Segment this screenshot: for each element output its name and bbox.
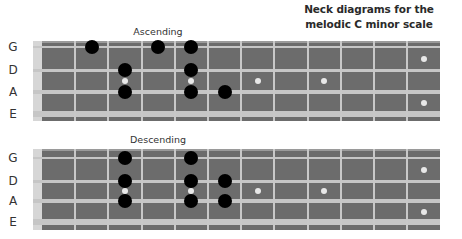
fret-wire [273,41,275,121]
board-edge [33,149,440,151]
fretboard-descending [33,149,440,230]
fret-wire [74,41,76,121]
string-label-e: E [4,216,22,228]
string-label-a: A [4,195,22,207]
note-dot [85,40,99,54]
string-d [33,180,440,183]
inlay-dot [255,188,261,194]
string-e [33,219,440,225]
note-dot [184,63,198,77]
inlay-dot [255,78,261,84]
fret-wire [340,149,342,230]
string-label-g: G [4,41,22,53]
title-line-1: Neck diagrams for the [294,2,444,17]
string-a [33,199,440,203]
note-dot [184,151,198,165]
fret-wire [373,149,375,230]
inlay-dot [321,188,327,194]
note-dot [218,174,232,188]
string-label-g: G [4,152,22,164]
note-dot [151,40,165,54]
fret-wire [207,41,209,121]
fret-wire [273,149,275,230]
nut [33,41,42,121]
inlay-dot [188,78,194,84]
note-dot [184,194,198,208]
string-d [33,69,440,72]
note-dot [118,85,132,99]
fret-wire [207,149,209,230]
fret-wire [240,41,242,121]
note-dot [218,194,232,208]
fret-wire [307,41,309,121]
inlay-dot [421,209,427,215]
note-dot [184,85,198,99]
nut [33,149,42,230]
note-dot [118,151,132,165]
fret-wire [74,149,76,230]
fret-wire [174,149,176,230]
diagram-label-descending: Descending [98,134,218,145]
string-label-d: D [4,175,22,187]
inlay-dot [321,78,327,84]
diagram-label-ascending: Ascending [98,26,218,37]
page-title: Neck diagrams for the melodic C minor sc… [294,2,444,32]
fret-wire [174,41,176,121]
note-dot [118,194,132,208]
note-dot [184,174,198,188]
string-a [33,90,440,94]
fret-wire [141,41,143,121]
fret-wire [373,41,375,121]
note-dot [118,63,132,77]
string-g [33,157,440,159]
string-label-d: D [4,64,22,76]
inlay-dot [421,100,427,106]
fret-wire [107,149,109,230]
fret-wire [307,149,309,230]
inlay-dot [421,167,427,173]
fret-wire [406,41,408,121]
note-dot [184,40,198,54]
fret-wire [406,149,408,230]
note-dot [118,174,132,188]
note-dot [218,85,232,99]
string-label-e: E [4,108,22,120]
inlay-dot [421,56,427,62]
title-line-2: melodic C minor scale [294,17,444,32]
fret-wire [107,41,109,121]
string-label-a: A [4,86,22,98]
string-e [33,111,440,117]
fret-wire [340,41,342,121]
fret-wire [240,149,242,230]
fretboard-ascending [33,41,440,121]
inlay-dot [122,78,128,84]
fret-wire [141,149,143,230]
